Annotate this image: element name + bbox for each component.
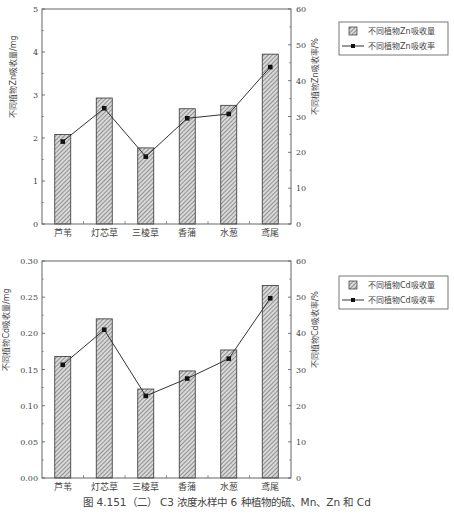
rate-marker xyxy=(226,112,231,117)
x-category-label: 香蒲 xyxy=(178,481,196,492)
y-axis-title: 不同植物Cd吸收量/mg xyxy=(1,288,11,370)
legend-line-marker-icon xyxy=(351,298,355,302)
bar-灯芯草 xyxy=(96,98,112,224)
x-category-label: 水葱 xyxy=(220,227,238,238)
y-tick-label: 0.10 xyxy=(20,402,38,411)
bar-芦苇 xyxy=(55,356,71,478)
x-category-label: 鸢尾 xyxy=(261,227,279,238)
y2-tick-label: 20 xyxy=(296,148,306,157)
y2-tick-label: 40 xyxy=(296,77,306,86)
rate-line xyxy=(63,298,271,396)
legend-line-marker-icon xyxy=(351,44,355,48)
bar-水葱 xyxy=(221,350,237,478)
y2-tick-label: 60 xyxy=(296,5,306,14)
rate-marker xyxy=(102,106,107,111)
y2-axis-title: 不同植物Cd吸收率/% xyxy=(310,291,320,368)
legend-line-label: 不同植物Zn吸收率 xyxy=(368,41,435,51)
y2-tick-label: 50 xyxy=(296,41,306,50)
legend-bar-swatch-icon xyxy=(349,27,357,35)
zn-chart-svg: 0123450102030405060芦苇灯芯草三棱草香蒲水葱鸢尾不同植物Zn吸… xyxy=(0,0,454,250)
bar-水葱 xyxy=(221,105,237,224)
y2-tick-label: 10 xyxy=(296,184,306,193)
y2-tick-label: 50 xyxy=(296,293,306,302)
rate-marker xyxy=(102,327,107,332)
legend-bar-swatch-icon xyxy=(349,281,357,289)
y-tick-label: 1 xyxy=(33,177,38,186)
rate-marker xyxy=(143,154,148,159)
y2-tick-label: 60 xyxy=(296,257,306,266)
y-tick-label: 0.00 xyxy=(20,474,38,483)
plot-frame xyxy=(42,261,291,478)
bar-三棱草 xyxy=(138,148,154,224)
legend: 不同植物Cd吸收量不同植物Cd吸收率 xyxy=(339,276,448,309)
rate-marker xyxy=(185,376,190,381)
bar-香蒲 xyxy=(179,109,195,224)
rate-marker xyxy=(268,65,273,70)
x-category-label: 香蒲 xyxy=(178,227,196,238)
y-tick-label: 2 xyxy=(33,134,38,143)
x-category-label: 芦苇 xyxy=(54,227,72,238)
y2-tick-label: 0 xyxy=(296,474,301,483)
y-tick-label: 0.25 xyxy=(20,293,38,302)
legend-bar-label: 不同植物Cd吸收量 xyxy=(368,280,435,290)
y2-tick-label: 40 xyxy=(296,329,306,338)
cd-uptake-chart: 0.000.050.100.150.200.250.30010203040506… xyxy=(0,252,454,492)
plot-frame xyxy=(42,9,291,224)
y2-tick-label: 0 xyxy=(296,220,301,229)
y2-tick-label: 10 xyxy=(296,438,306,447)
legend-line-label: 不同植物Cd吸收率 xyxy=(368,295,435,305)
rate-marker xyxy=(268,296,273,301)
cd-chart-svg: 0.000.050.100.150.200.250.30010203040506… xyxy=(0,252,454,492)
x-category-label: 灯芯草 xyxy=(91,227,118,238)
rate-marker xyxy=(60,139,65,144)
y-tick-label: 0.15 xyxy=(20,366,38,375)
y-tick-label: 0.30 xyxy=(20,257,38,266)
bar-灯芯草 xyxy=(96,319,112,478)
rate-marker xyxy=(185,116,190,121)
y2-axis-title: 不同植物Zn吸收率/% xyxy=(310,38,320,115)
y2-tick-label: 30 xyxy=(296,366,306,375)
bar-香蒲 xyxy=(179,371,195,478)
x-category-label: 三棱草 xyxy=(132,481,159,492)
bar-鸢尾 xyxy=(262,54,278,224)
zn-uptake-chart: 0123450102030405060芦苇灯芯草三棱草香蒲水葱鸢尾不同植物Zn吸… xyxy=(0,0,454,250)
legend: 不同植物Zn吸收量不同植物Zn吸收率 xyxy=(339,22,448,55)
rate-line xyxy=(63,67,271,157)
y-axis-title: 不同植物Zn吸收量/mg xyxy=(8,35,18,117)
y-tick-label: 4 xyxy=(33,48,38,57)
x-category-label: 水葱 xyxy=(220,481,238,492)
rate-marker xyxy=(143,394,148,399)
bar-芦苇 xyxy=(55,135,71,224)
y2-tick-label: 30 xyxy=(296,113,306,122)
y-tick-label: 0.05 xyxy=(20,438,38,447)
rate-marker xyxy=(226,356,231,361)
x-category-label: 芦苇 xyxy=(54,481,72,492)
figure-caption: 图 4.151（二） C3 浓度水样中 6 种植物的硫、Mn、Zn 和 Cd xyxy=(0,494,454,509)
x-category-label: 鸢尾 xyxy=(261,481,279,492)
y-tick-label: 5 xyxy=(33,5,38,14)
y2-tick-label: 20 xyxy=(296,402,306,411)
x-category-label: 灯芯草 xyxy=(91,481,118,492)
bar-三棱草 xyxy=(138,389,154,478)
y-tick-label: 0 xyxy=(33,220,38,229)
y-tick-label: 3 xyxy=(33,91,38,100)
y-tick-label: 0.20 xyxy=(20,329,38,338)
rate-marker xyxy=(60,362,65,367)
legend-bar-label: 不同植物Zn吸收量 xyxy=(368,26,435,36)
x-category-label: 三棱草 xyxy=(132,227,159,238)
bar-鸢尾 xyxy=(262,286,278,478)
